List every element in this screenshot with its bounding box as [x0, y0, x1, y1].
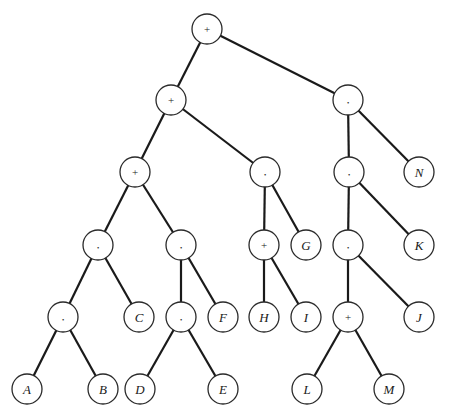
node-label: A: [22, 382, 31, 397]
operator-node-n13: ∙: [48, 302, 78, 332]
operator-node-n2: ∙: [333, 85, 363, 115]
operand-node-n26: M: [374, 374, 404, 404]
operand-node-n22: B: [88, 374, 118, 404]
node-label: ∙: [346, 95, 349, 110]
node-label: H: [258, 310, 269, 325]
operand-node-n18: I: [291, 302, 321, 332]
node-label: +: [261, 239, 267, 251]
operand-node-n12: K: [404, 230, 434, 260]
operand-node-n24: E: [208, 374, 238, 404]
node-label: E: [218, 382, 227, 397]
operand-node-n16: F: [208, 302, 238, 332]
operator-node-n7: ∙: [83, 230, 113, 260]
node-label: ∙: [346, 240, 349, 255]
node-label: ∙: [179, 312, 182, 327]
operand-node-n6: N: [404, 157, 434, 187]
node-label: +: [168, 94, 174, 106]
operand-node-n17: H: [249, 302, 279, 332]
node-label: ∙: [179, 240, 182, 255]
node-label: ∙: [61, 312, 64, 327]
operator-node-n5: ∙: [334, 157, 364, 187]
tree-edge-n1-n4: [171, 100, 265, 172]
operator-node-n9: +: [249, 230, 279, 260]
node-label: ∙: [347, 167, 350, 182]
operand-node-n10: G: [291, 230, 321, 260]
node-label: +: [132, 166, 138, 178]
node-label: +: [204, 23, 210, 35]
node-label: D: [134, 382, 145, 397]
operator-node-n1: +: [156, 85, 186, 115]
node-label: F: [218, 310, 228, 325]
operator-node-n0: +: [192, 14, 222, 44]
expression-tree-diagram: ++∙+∙∙N∙∙+G∙K∙C∙FHI+JABDELM: [0, 0, 449, 417]
node-label: K: [414, 238, 425, 253]
node-label: +: [345, 311, 351, 323]
tree-edge-n0-n2: [207, 29, 348, 100]
node-label: C: [135, 310, 144, 325]
operator-node-n8: ∙: [166, 230, 196, 260]
node-label: I: [303, 310, 309, 325]
node-label: G: [301, 238, 311, 253]
node-label: N: [414, 165, 425, 180]
tree-nodes: ++∙+∙∙N∙∙+G∙K∙C∙FHI+JABDELM: [12, 14, 434, 404]
operator-node-n3: +: [120, 157, 150, 187]
node-label: ∙: [263, 167, 266, 182]
operand-node-n25: L: [292, 374, 322, 404]
node-label: L: [302, 382, 310, 397]
operator-node-n19: +: [333, 302, 363, 332]
node-label: B: [99, 382, 107, 397]
operand-node-n20: J: [404, 302, 434, 332]
operand-node-n21: A: [12, 374, 42, 404]
operator-node-n4: ∙: [250, 157, 280, 187]
operator-node-n11: ∙: [333, 230, 363, 260]
node-label: ∙: [96, 240, 99, 255]
tree-edges: [27, 29, 419, 389]
operator-node-n15: ∙: [166, 302, 196, 332]
operand-node-n14: C: [124, 302, 154, 332]
node-label: M: [383, 382, 396, 397]
operand-node-n23: D: [125, 374, 155, 404]
